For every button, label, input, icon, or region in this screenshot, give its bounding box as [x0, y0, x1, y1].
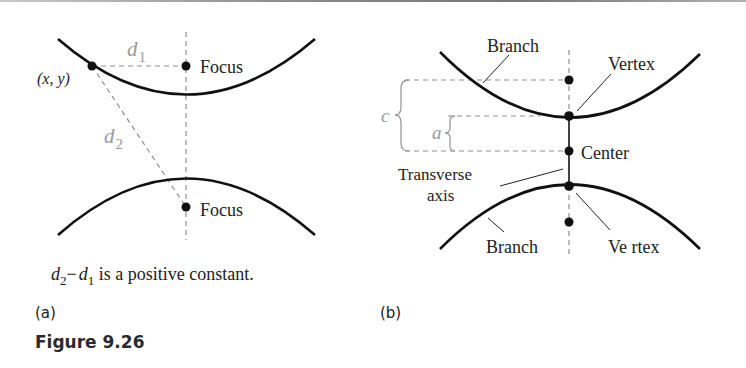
focus-top-label: Focus	[200, 57, 243, 77]
transverse-pointer	[500, 169, 563, 186]
branch-top-label: Branch	[487, 36, 539, 56]
focus-top-dot-b	[565, 76, 574, 85]
a-label: a	[432, 122, 442, 143]
d2-label: d2	[104, 124, 123, 152]
transverse-label-line2: axis	[427, 186, 454, 205]
vertex-bottom-dot	[564, 181, 574, 191]
vertex-top-dot	[564, 111, 574, 121]
vertex-bottom-label: Ve rtex	[608, 237, 659, 257]
panel-a: (x, y) d1 d2 Focus Focus d2−d1 is a posi…	[35, 32, 315, 322]
panel-a-label: (a)	[35, 304, 56, 322]
upper-branch-curve-b	[440, 52, 700, 118]
point-xy-label: (x, y)	[37, 70, 70, 88]
branch-bottom-pointer	[488, 218, 504, 232]
a-brace	[445, 116, 455, 151]
focus-bottom-dot-b	[565, 218, 574, 227]
transverse-label-line1: Transverse	[398, 165, 472, 184]
focus-bottom-dot	[182, 203, 191, 212]
point-xy-dot	[88, 62, 97, 71]
panel-b: Branch Vertex c a Center Transverse axis…	[380, 36, 700, 322]
c-brace	[395, 80, 409, 151]
caption-a: d2−d1 is a positive constant.	[51, 264, 254, 288]
focus-bottom-label: Focus	[200, 200, 243, 220]
branch-top-pointer	[483, 55, 509, 83]
vertex-top-pointer	[577, 74, 611, 111]
d1-label: d1	[127, 37, 146, 65]
vertex-bottom-pointer	[576, 193, 610, 230]
c-label: c	[381, 105, 390, 126]
center-dot	[565, 147, 574, 156]
center-label: Center	[581, 143, 629, 163]
figure-title: Figure 9.26	[35, 332, 145, 352]
panel-b-label: (b)	[380, 304, 401, 322]
vertex-top-label: Vertex	[608, 54, 655, 74]
hyperbola-figure: (x, y) d1 d2 Focus Focus d2−d1 is a posi…	[0, 0, 746, 368]
branch-bottom-label: Branch	[486, 237, 538, 257]
focus-top-dot	[182, 62, 191, 71]
lower-branch-curve-b	[440, 185, 700, 250]
